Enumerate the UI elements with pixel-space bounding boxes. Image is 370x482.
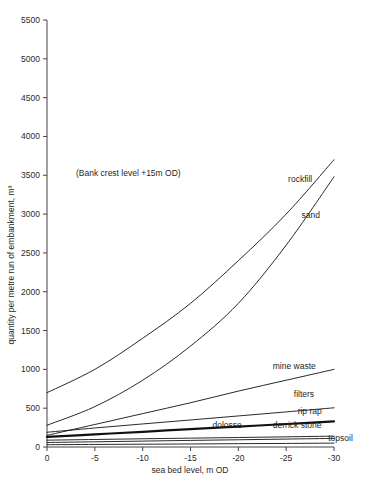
x-axis-title: sea bed level, m OD <box>151 465 228 475</box>
series-label-mine-waste: mine waste <box>273 361 316 371</box>
x-tick-label: -5 <box>91 453 99 463</box>
series-curve-topsoil <box>47 443 334 445</box>
chart-canvas: 0500100015002000250030003500400045005000… <box>0 0 370 482</box>
y-tick-label: 4000 <box>21 131 40 141</box>
series-curve-rockfill <box>47 160 334 393</box>
series-label-derrick-stone: derrick stone <box>273 420 322 430</box>
x-tick-label: -10 <box>137 453 150 463</box>
x-axis: 0-5-10-15-20-25-30 <box>45 447 341 463</box>
y-axis: 0500100015002000250030003500400045005000… <box>21 15 47 452</box>
series-curve-derrick-stone <box>47 436 334 440</box>
y-axis-title: quantity per metre run of embankment, m³ <box>6 185 16 344</box>
x-tick-label: -25 <box>280 453 293 463</box>
x-tick-label: -15 <box>184 453 197 463</box>
y-tick-label: 3000 <box>21 209 40 219</box>
y-tick-label: 0 <box>35 442 40 452</box>
series-label-rip-rap: rip rap <box>298 406 322 416</box>
y-tick-label: 4500 <box>21 93 40 103</box>
bank-crest-level-note: (Bank crest level +15m OD) <box>76 168 181 178</box>
y-tick-label: 500 <box>26 403 40 413</box>
series-label-rockfill: rockfill <box>288 174 312 184</box>
x-tick-label: 0 <box>45 453 50 463</box>
series-curves <box>47 160 334 445</box>
series-label-filters: filters <box>294 389 314 399</box>
y-tick-label: 5000 <box>21 54 40 64</box>
series-label-dolosse: dolosse <box>213 420 243 430</box>
chart-figure: 0500100015002000250030003500400045005000… <box>0 0 370 482</box>
x-tick-label: -20 <box>232 453 245 463</box>
series-curve-dolosse <box>47 438 334 442</box>
y-tick-label: 3500 <box>21 170 40 180</box>
series-label-topsoil: topsoil <box>328 433 353 443</box>
x-tick-label: -30 <box>328 453 341 463</box>
y-tick-label: 1500 <box>21 326 40 336</box>
y-tick-label: 2000 <box>21 287 40 297</box>
y-tick-label: 2500 <box>21 248 40 258</box>
y-tick-label: 1000 <box>21 364 40 374</box>
series-label-sand: sand <box>301 210 320 220</box>
chart-annotations: (Bank crest level +15m OD) <box>76 168 181 178</box>
series-curve-sand <box>47 177 334 425</box>
y-tick-label: 5500 <box>21 15 40 25</box>
